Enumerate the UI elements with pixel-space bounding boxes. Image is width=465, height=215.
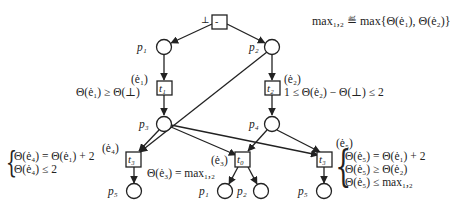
place-p5-right [317, 184, 332, 199]
p5-left-label: p₅ [108, 185, 118, 198]
place-p4 [265, 117, 280, 132]
p1-bottom-label: p₁ [199, 185, 209, 198]
place-p1-bottom [218, 184, 233, 199]
constraint-e2: 1 ≤ Θ(ė₂) − Θ(⊥) ≤ 2 [284, 86, 384, 99]
constraint-e3: Θ(ė₃) = max₁,₂ [147, 167, 215, 180]
start-transition-label: - [215, 15, 218, 28]
constraint-e5-line1: Θ(ė₅) = Θ(ė₁) + 2 [345, 150, 425, 163]
p5-right-label: p₅ [298, 185, 308, 198]
p4-label: p₄ [249, 118, 259, 131]
t2-label: t₂ [267, 82, 274, 95]
constraint-e4-line1: Θ(ė₄) = Θ(ė₁) + 2 [14, 150, 94, 163]
place-p2-bottom [254, 184, 269, 199]
constraint-e5-line3: Θ(ė₅) ≤ max₁,₂ [345, 176, 413, 189]
arc-t0-p1 [229, 167, 238, 184]
t0-label: t₀ [237, 153, 244, 166]
event-e2-label: (ė₂) [284, 73, 301, 86]
place-p3 [157, 117, 172, 132]
event-e4-label: (ė₄) [102, 142, 119, 155]
place-p1-top [157, 40, 172, 55]
t3-right-label: t₃ [319, 153, 326, 166]
t3-left-label: t₃ [128, 153, 135, 166]
event-e3-label: (ė₃) [211, 154, 228, 167]
t1-label: t₁ [159, 82, 166, 95]
constraint-e4-line2: Θ(ė₄) ≤ 2 [14, 163, 57, 176]
arc-p3-t3-left [139, 130, 159, 151]
place-p5-left [127, 184, 142, 199]
arc-p4-t0 [248, 130, 267, 151]
arc-p2-t3-left [140, 52, 267, 152]
constraint-e1: Θ(ė₁) ≥ Θ(⊥) [76, 86, 140, 99]
arc-t0-p2 [248, 167, 257, 184]
event-e1-label: (ė₁) [131, 73, 148, 86]
p2-top-label: p₂ [249, 41, 259, 54]
constraint-e5-line2: Θ(ė₅) ≥ Θ(ė₂) [345, 163, 407, 176]
max-definition: max₁,₂ ≝ max{Θ(ė₁), Θ(ė₂)} [312, 15, 451, 28]
arc-p4-t3-right [277, 130, 320, 152]
bottom-event-label: ⊥ [201, 14, 209, 27]
place-p2-top [265, 40, 280, 55]
arc-start-p2 [227, 24, 265, 43]
p1-top-label: p₁ [137, 41, 147, 54]
p3-label: p₃ [139, 118, 149, 131]
p2-bottom-label: p₂ [237, 185, 247, 198]
